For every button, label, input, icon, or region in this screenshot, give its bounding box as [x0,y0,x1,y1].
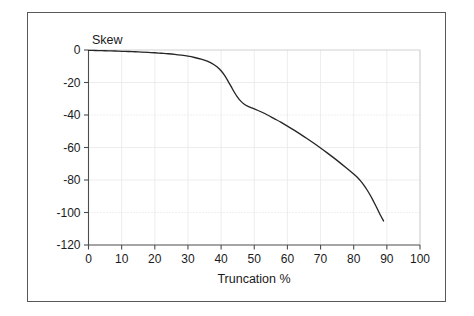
y-axis-tick-labels: 0-20-40-60-80-100-120 [56,43,80,252]
y-tick-label: -20 [63,76,81,90]
x-tick-label: 80 [347,252,361,266]
x-tick-label: 60 [281,252,295,266]
x-tick-label: 0 [85,252,92,266]
y-tick-label: -80 [63,173,81,187]
y-tick-label: 0 [74,43,81,57]
x-tick-label: 90 [380,252,394,266]
x-tick-label: 50 [248,252,262,266]
x-tick-label: 30 [181,252,195,266]
x-tick-label: 100 [410,252,430,266]
x-tick-label: 40 [214,252,228,266]
x-axis-tick-labels: 0102030405060708090100 [85,252,430,266]
x-axis-title: Truncation % [217,272,290,286]
y-axis-title: Skew [92,33,124,47]
gridlines [89,50,421,245]
y-tick-label: -60 [63,141,81,155]
y-tick-label: -100 [56,206,80,220]
tick-marks [84,50,420,250]
data-series-curve [89,50,384,221]
x-tick-label: 70 [314,252,328,266]
x-tick-label: 10 [115,252,129,266]
skew-truncation-line-chart: 0-20-40-60-80-100-120 010203040506070809… [0,0,474,316]
series-line-skew [89,50,384,221]
figure-root: 0-20-40-60-80-100-120 010203040506070809… [0,0,474,316]
y-tick-label: -120 [56,238,80,252]
x-tick-label: 20 [148,252,162,266]
y-tick-label: -40 [63,108,81,122]
